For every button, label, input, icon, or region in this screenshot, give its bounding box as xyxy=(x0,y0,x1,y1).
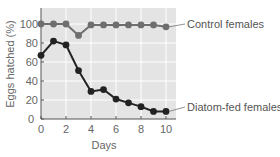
data-point xyxy=(38,21,45,28)
y-tick-label: 0 xyxy=(28,113,34,125)
data-point xyxy=(138,103,145,110)
data-point xyxy=(150,108,157,115)
data-point xyxy=(100,22,107,29)
legend-label: Diatom-fed females xyxy=(187,101,280,113)
data-point xyxy=(163,23,170,30)
x-tick-label: 2 xyxy=(63,123,69,135)
y-tick-label: 20 xyxy=(26,94,38,106)
data-point xyxy=(125,99,132,106)
x-tick-label: 4 xyxy=(88,123,94,135)
data-point xyxy=(138,22,145,29)
y-axis-title: Eggs hatched (%) xyxy=(4,20,16,107)
data-point xyxy=(113,96,120,103)
x-axis-title: Days xyxy=(91,139,117,151)
x-tick-label: 6 xyxy=(113,123,119,135)
data-point xyxy=(88,88,95,95)
data-point xyxy=(63,21,70,28)
data-point xyxy=(150,22,157,29)
data-point xyxy=(100,86,107,93)
data-point xyxy=(50,38,57,45)
y-tick-label: 40 xyxy=(26,75,38,87)
y-tick-label: 60 xyxy=(26,56,38,68)
y-axis-ticks: 020406080100 xyxy=(20,18,44,125)
y-tick-label: 100 xyxy=(20,18,38,30)
eggs-hatched-chart: 020406080100 0246810 Eggs hatched (%) Da… xyxy=(0,0,280,157)
y-tick-label: 80 xyxy=(26,37,38,49)
data-point xyxy=(125,22,132,29)
x-tick-label: 0 xyxy=(38,123,44,135)
x-tick-label: 10 xyxy=(160,123,172,135)
data-point xyxy=(63,42,70,49)
data-point xyxy=(163,108,170,115)
data-point xyxy=(50,21,57,28)
data-point xyxy=(38,52,45,59)
data-point xyxy=(75,32,82,39)
legend-label: Control females xyxy=(187,18,265,30)
x-tick-label: 8 xyxy=(138,123,144,135)
data-point xyxy=(88,22,95,29)
data-point xyxy=(113,22,120,29)
data-point xyxy=(75,67,82,74)
legend: Control femalesDiatom-fed females xyxy=(169,18,280,113)
